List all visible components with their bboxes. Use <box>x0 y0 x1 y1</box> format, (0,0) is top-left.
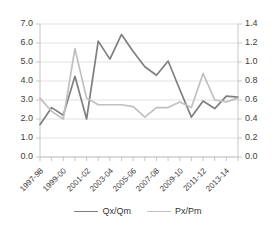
legend-label: Px/Pm <box>175 206 202 216</box>
legend-item[interactable]: Qx/Qm <box>74 206 131 216</box>
legend-item[interactable]: Px/Pm <box>147 206 202 216</box>
legend-label: Qx/Qm <box>102 206 131 216</box>
plot-area <box>0 0 276 232</box>
chart-legend: Qx/QmPx/Pm <box>0 203 276 219</box>
legend-line-swatch <box>147 211 171 212</box>
chart-container: 0.01.02.03.04.05.06.07.0 0.00.20.40.60.8… <box>0 0 276 232</box>
legend-line-swatch <box>74 211 98 212</box>
